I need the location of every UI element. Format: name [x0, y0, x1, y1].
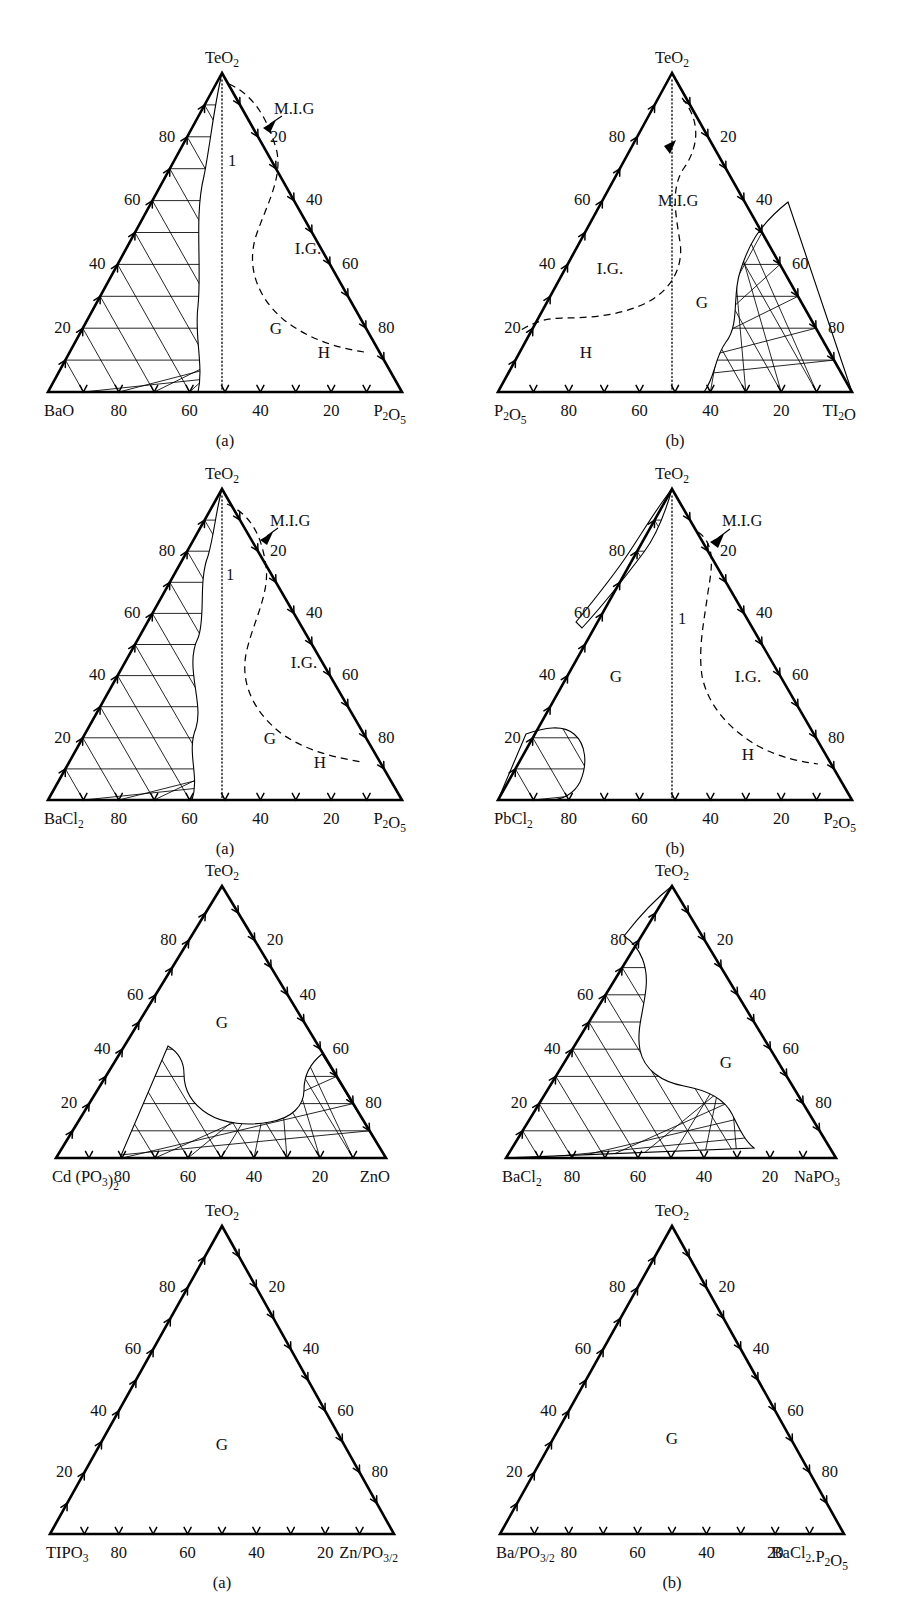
- right-axis-tick-label: 40: [306, 603, 323, 622]
- left-axis-tick-label: 20: [54, 728, 71, 747]
- left-corner-label: Ba/PO3/2: [496, 1543, 555, 1564]
- right-axis-tick-label: 60: [332, 1039, 349, 1058]
- ternary-diagram-panel-3a: TeO2Cd (PO3)2ZnO806040202040608080604020…: [8, 856, 448, 1192]
- triangle-outline: [50, 1226, 394, 1534]
- hatch-grid: [65, 520, 384, 800]
- hatched-region-boundary: [56, 1046, 386, 1158]
- panel-caption: (a): [213, 1573, 231, 1592]
- hatch-grid: [65, 105, 384, 392]
- left-axis-tick-label: 20: [504, 318, 521, 337]
- bottom-axis-tick-label: 60: [181, 401, 198, 420]
- bottom-axis-tick-label: 60: [179, 1543, 196, 1562]
- triangle-outline: [498, 489, 852, 800]
- bottom-axis-tick-label: 40: [702, 809, 719, 828]
- right-axis-tick-label: 20: [720, 127, 737, 146]
- bottom-axis-tick-label: 20: [323, 401, 340, 420]
- left-axis-tick-label: 40: [94, 1039, 111, 1058]
- panel-panel-1b: TeO2P2O5TI2O806040202040608080604020I.G.…: [458, 36, 898, 456]
- left-axis-tick-label: 40: [539, 254, 556, 273]
- bottom-axis-tick-label: 80: [111, 401, 128, 420]
- region-label-g: G: [720, 1053, 732, 1072]
- left-axis-tick-label: 80: [159, 127, 176, 146]
- curve-label-1: 1: [228, 151, 236, 170]
- ternary-diagram-panel-2a: TeO2BaCl2P2O5806040202040608080604020I.G…: [8, 452, 448, 860]
- hatch-grid: [73, 913, 370, 1158]
- bottom-axis-tick-label: 40: [252, 809, 269, 828]
- left-axis-tick-label: 20: [61, 1093, 78, 1112]
- triangle-outline: [500, 1226, 844, 1534]
- right-axis-tick-label: 40: [306, 190, 323, 209]
- right-axis-tick-label: 20: [267, 930, 284, 949]
- right-axis-tick-label: 60: [792, 254, 809, 273]
- panel-panel-3a: TeO2Cd (PO3)2ZnO806040202040608080604020…: [8, 856, 448, 1192]
- mig-arrow-icon: [664, 140, 676, 154]
- left-axis-tick-label: 60: [574, 190, 591, 209]
- right-axis-tick-label: 80: [372, 1462, 389, 1481]
- bottom-axis-tick-label: 60: [630, 1167, 647, 1186]
- bottom-axis-tick-label: 40: [252, 401, 269, 420]
- region-label-g: G: [264, 729, 276, 748]
- left-axis-tick-label: 80: [159, 541, 176, 560]
- triangle-outline: [48, 73, 402, 392]
- left-axis-tick-label: 60: [577, 985, 594, 1004]
- left-axis-tick-label: 80: [160, 930, 177, 949]
- bottom-axis-tick-label: 20: [773, 809, 790, 828]
- left-axis-tick-label: 60: [127, 985, 144, 1004]
- left-axis-tick-label: 80: [609, 541, 626, 560]
- bottom-axis-tick-label: 20: [312, 1167, 329, 1186]
- left-axis-tick-label: 40: [90, 1401, 107, 1420]
- triangle-outline: [48, 489, 402, 800]
- hatch-grid: [523, 913, 820, 1158]
- left-corner-label: Cd (PO3)2: [52, 1167, 119, 1192]
- curve-label-1: 1: [226, 565, 234, 584]
- ternary-diagram-panel-4a: TeO2TIPO3Zn/PO3/280604020204060808060402…: [8, 1196, 448, 1596]
- apex-label: TeO2: [655, 1201, 689, 1222]
- right-axis-tick-label: 80: [828, 728, 845, 747]
- right-corner-label: P2O5: [373, 809, 406, 834]
- right-axis-tick-label: 20: [270, 127, 287, 146]
- ternary-diagram-panel-1b: TeO2P2O5TI2O806040202040608080604020I.G.…: [458, 36, 898, 456]
- ternary-diagram-panel-3b: TeO2BaCl2NaPO3806040202040608080604020G: [458, 856, 898, 1192]
- apex-label: TeO2: [655, 464, 689, 485]
- apex-label: TeO2: [205, 1201, 239, 1222]
- bottom-axis-tick-label: 20: [773, 401, 790, 420]
- bottom-axis-tick-label: 80: [111, 1543, 128, 1562]
- apex-label: TeO2: [655, 48, 689, 69]
- bottom-axis-tick-label: 40: [696, 1167, 713, 1186]
- right-corner-label: NaPO3: [794, 1167, 840, 1188]
- panel-caption: (a): [216, 431, 234, 450]
- region-label-ig: I.G.: [735, 667, 761, 686]
- hatch-grid: [515, 520, 834, 800]
- right-axis-tick-label: 60: [792, 665, 809, 684]
- region-label-mig: M.I.G: [270, 511, 310, 530]
- right-axis-tick-label: 20: [717, 930, 734, 949]
- ternary-diagram-panel-4b: TeO2Ba/PO3/2BaCl2.P2O5806040202040608080…: [458, 1196, 898, 1596]
- left-corner-label: BaO: [44, 401, 74, 420]
- right-axis-tick-label: 20: [268, 1277, 285, 1296]
- left-corner-label: TIPO3: [46, 1543, 89, 1564]
- region-label-g: G: [696, 293, 708, 312]
- left-corner-label: BaCl2: [502, 1167, 542, 1188]
- region-label-h: H: [314, 753, 326, 772]
- apex-label: TeO2: [655, 861, 689, 882]
- bottom-axis-tick-label: 20: [762, 1167, 779, 1186]
- bottom-axis-tick-label: 80: [561, 401, 578, 420]
- right-axis-tick-label: 80: [822, 1462, 839, 1481]
- panel-caption: (b): [665, 431, 684, 450]
- right-axis-tick-label: 40: [753, 1339, 770, 1358]
- bottom-axis-tick-label: 80: [114, 1167, 131, 1186]
- left-axis-tick-label: 20: [504, 728, 521, 747]
- right-corner-label: Zn/PO3/2: [339, 1543, 398, 1564]
- left-axis-tick-label: 80: [609, 1277, 626, 1296]
- region-label-ig: I.G.: [291, 653, 317, 672]
- ternary-diagram-panel-1a: TeO2BaOP2O5806040202040608080604020I.G.G…: [8, 36, 448, 456]
- bottom-axis-tick-label: 80: [561, 809, 578, 828]
- left-axis-tick-label: 40: [544, 1039, 561, 1058]
- right-axis-tick-label: 80: [828, 318, 845, 337]
- left-axis-tick-label: 60: [125, 1339, 142, 1358]
- right-axis-tick-label: 60: [342, 254, 359, 273]
- apex-label: TeO2: [205, 464, 239, 485]
- region-label-g: G: [216, 1013, 228, 1032]
- immiscibility-boundary: [227, 504, 362, 762]
- right-axis-tick-label: 40: [756, 190, 773, 209]
